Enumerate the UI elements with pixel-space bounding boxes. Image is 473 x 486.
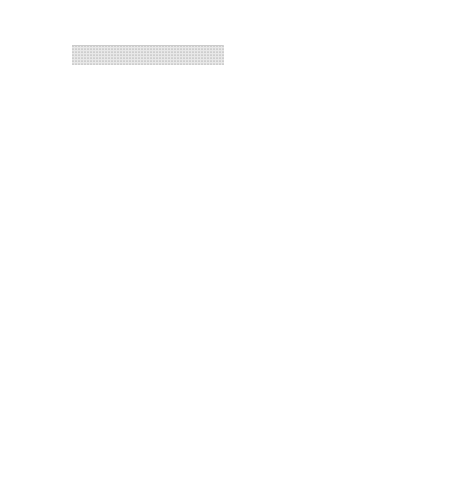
strata-diagram — [0, 0, 473, 486]
original-strata-section — [72, 44, 224, 164]
